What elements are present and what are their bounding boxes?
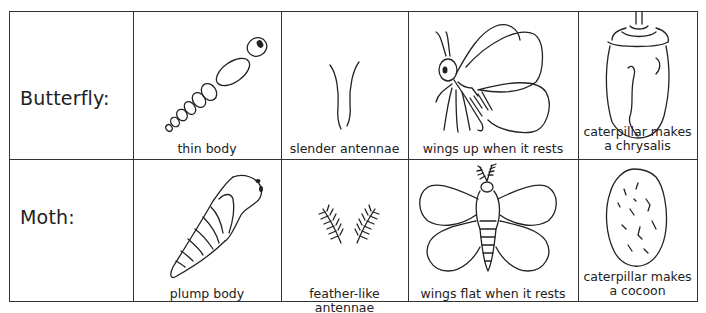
cell-thin-body: thin body [133,12,281,159]
caption-cocoon: caterpillar makes a cocoon [578,270,697,298]
caption-feather-antennae: feather-like antennae [281,287,408,313]
butterfly-wings-up-icon [408,12,578,159]
cell-wings-up: wings up when it rests [408,12,578,159]
row-label-cell-butterfly: Butterfly: [10,12,133,159]
caption-chrysalis: caterpillar makes a chrysalis [578,125,697,153]
caption-wings-up: wings up when it rests [408,142,578,156]
cell-feather-antennae: feather-like antennae [281,159,408,303]
plump-body-icon [133,159,281,303]
moth-wings-flat-icon [408,159,578,303]
slender-antennae-icon [281,12,408,159]
caption-cocoon-line2: a cocoon [578,284,697,298]
caption-slender-antennae: slender antennae [281,142,408,156]
caption-chrysalis-line1: caterpillar makes [578,125,697,139]
caption-thin-body: thin body [133,142,281,156]
caption-cocoon-line1: caterpillar makes [578,270,697,284]
caption-wings-flat: wings flat when it rests [408,287,578,301]
caption-chrysalis-line2: a chrysalis [578,139,697,153]
row-label-moth: Moth: [20,206,75,228]
feather-antennae-icon [281,159,408,303]
caption-plump-body: plump body [133,287,281,301]
comparison-table: Butterfly: thin body slender antennae [9,11,698,302]
cell-slender-antennae: slender antennae [281,12,408,159]
row-label-butterfly: Butterfly: [20,87,110,109]
thin-body-icon [133,12,281,159]
cell-cocoon: caterpillar makes a cocoon [578,159,697,303]
cell-wings-flat: wings flat when it rests [408,159,578,303]
cell-chrysalis: caterpillar makes a chrysalis [578,12,697,159]
cell-plump-body: plump body [133,159,281,303]
row-label-cell-moth: Moth: [10,159,133,303]
